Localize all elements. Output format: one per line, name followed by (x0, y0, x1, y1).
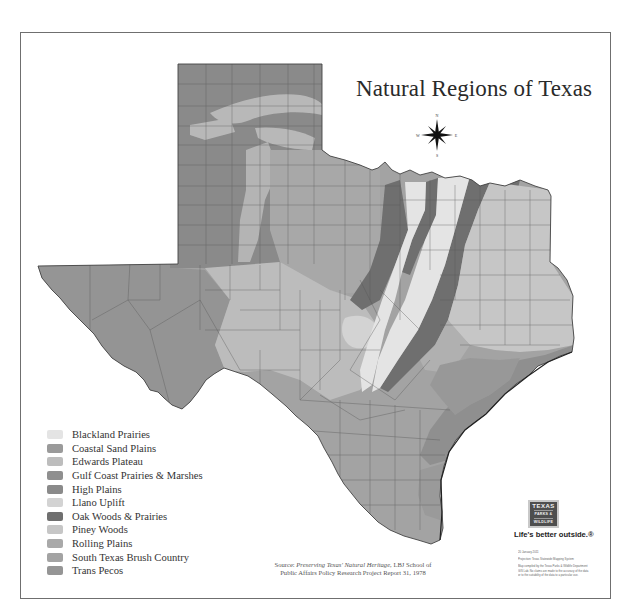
legend-label: Llano Uplift (72, 497, 125, 508)
legend-swatch (47, 553, 63, 562)
source-title: Preserving Texas' Natural Heritage (296, 561, 390, 568)
legend-label: Trans Pecos (72, 565, 123, 576)
legend-label: Coastal Sand Plains (72, 443, 156, 454)
legend-item-gulf-coast-prairies: Gulf Coast Prairies & Marshes (47, 469, 203, 483)
legend-item-oak-woods-prairies: Oak Woods & Prairies (47, 510, 203, 524)
legend-label: Rolling Plains (72, 538, 132, 549)
legend-item-south-texas-brush: South Texas Brush Country (47, 550, 203, 564)
logo-line2: PARKS & (534, 510, 552, 518)
legend-label: Piney Woods (72, 524, 128, 535)
legend-item-coastal-sand-plains: Coastal Sand Plains (47, 442, 203, 456)
source-line1-suffix: , LBJ School of (390, 561, 431, 568)
compass-north: N (436, 113, 439, 118)
legend-item-llano-uplift: Llano Uplift (47, 496, 203, 510)
legend-label: Gulf Coast Prairies & Marshes (72, 470, 203, 481)
map-title: Natural Regions of Texas (356, 76, 592, 102)
logo-tagline: Life's better outside.® (514, 530, 594, 539)
legend-item-high-plains: High Plains (47, 482, 203, 496)
legend-swatch (47, 485, 63, 494)
legend-swatch (47, 498, 63, 507)
source-line2: Public Affairs Policy Research Project R… (258, 569, 448, 577)
legend-item-trans-pecos: Trans Pecos (47, 564, 203, 578)
legend-label: High Plains (72, 484, 122, 495)
compass-west: W (416, 133, 420, 138)
legend-swatch (47, 471, 63, 480)
legend-item-blackland-prairies: Blackland Prairies (47, 428, 203, 442)
legend-swatch (47, 457, 63, 466)
legend-swatch (47, 539, 63, 548)
logo-line1: TEXAS (532, 503, 555, 510)
legend-swatch (47, 525, 63, 534)
legend-swatch (47, 512, 63, 521)
legend-item-piney-woods: Piney Woods (47, 523, 203, 537)
compass-south: S (436, 153, 438, 158)
legend-swatch (47, 444, 63, 453)
fine-print-disclaimer-3: or to the suitability of the data to a p… (518, 573, 602, 577)
source-prefix: Source: (275, 561, 297, 568)
source-citation: Source: Preserving Texas' Natural Herita… (258, 561, 448, 577)
legend-item-rolling-plains: Rolling Plains (47, 537, 203, 551)
legend-item-edwards-plateau: Edwards Plateau (47, 455, 203, 469)
legend-label: Blackland Prairies (72, 429, 150, 440)
tpwd-logo: TEXAS PARKS & WILDLIFE (528, 500, 559, 528)
compass-east: E (455, 133, 458, 138)
legend-label: Oak Woods & Prairies (72, 511, 167, 522)
legend-swatch (47, 566, 63, 575)
logo-line3: WILDLIFE (534, 518, 553, 526)
legend-label: Edwards Plateau (72, 456, 143, 467)
legend: Blackland Prairies Coastal Sand Plains E… (47, 428, 203, 578)
legend-swatch (47, 430, 63, 439)
legend-label: South Texas Brush Country (72, 552, 189, 563)
fine-print: 20 January 2011 Projection: Texas Statew… (518, 550, 602, 577)
compass-rose-icon: N S E W (414, 112, 460, 158)
